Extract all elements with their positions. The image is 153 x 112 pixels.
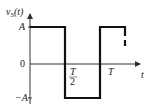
tick-label-A: A: [18, 21, 26, 32]
x-axis-label: t: [141, 69, 144, 80]
tick-label-T: T: [108, 66, 115, 77]
tick-label-zero: 0: [20, 58, 25, 69]
square-wave: [30, 27, 125, 98]
tick-label-half-T-den: 2: [70, 76, 75, 87]
square-wave-diagram: vS(t) A 0 −A T 2 T t: [0, 0, 153, 112]
tick-label-neg-A: −A: [15, 92, 29, 103]
y-axis-label: vS(t): [6, 6, 24, 19]
